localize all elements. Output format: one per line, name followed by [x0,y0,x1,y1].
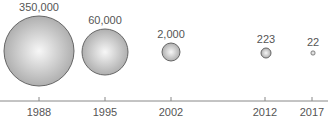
bubble-group-2017: 222017 [300,36,324,118]
bubble-group-2002: 2,0002002 [157,28,185,118]
value-label: 2,000 [157,28,185,40]
x-tick-label: 2002 [159,106,183,118]
value-label: 22 [307,36,319,48]
bubble-1995 [82,29,128,75]
bubble-2002 [162,43,180,61]
bubble-group-1995: 60,0001995 [82,14,128,118]
bubble-chart: 350,000198860,00019952,00020022232012222… [0,0,328,123]
x-tick-label: 2012 [253,106,277,118]
value-label: 60,000 [88,14,122,26]
x-tick-label: 1995 [93,106,117,118]
bubble-1988 [4,16,74,86]
x-tick-label: 2017 [300,106,324,118]
bubble-group-1988: 350,0001988 [4,1,74,118]
x-tick-label: 1988 [27,106,51,118]
bubble-group-2012: 2232012 [253,33,277,118]
value-label: 223 [257,33,275,45]
bubbles-layer: 350,000198860,00019952,00020022232012222… [4,1,324,118]
value-label: 350,000 [19,1,59,13]
bubble-2012 [261,48,271,58]
bubble-2017 [311,51,315,55]
